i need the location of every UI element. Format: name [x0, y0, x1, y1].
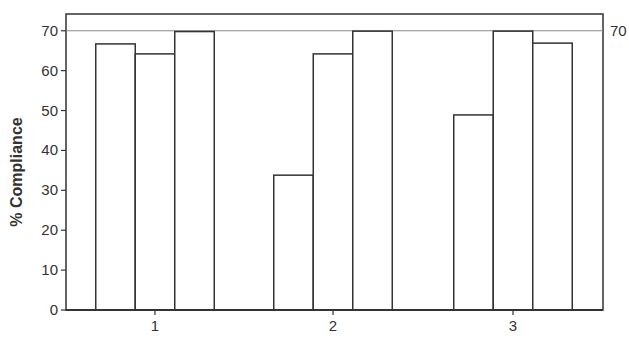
y-tick-label: 0: [50, 301, 58, 318]
y-tick-label: 10: [41, 261, 58, 278]
x-tick-label: 1: [151, 317, 159, 334]
x-tick-label: 3: [509, 317, 517, 334]
y-tick-label: 50: [41, 102, 58, 119]
y-tick-label: 30: [41, 181, 58, 198]
y-tick-label: 60: [41, 62, 58, 79]
bar: [313, 54, 353, 310]
y-tick-label: 20: [41, 221, 58, 238]
y-tick-label: 70: [41, 22, 58, 39]
bar: [135, 54, 175, 310]
bar: [96, 44, 136, 310]
x-tick-label: 2: [329, 317, 337, 334]
bar-chart: 70010203040506070123 % Compliance: [0, 0, 629, 345]
bar: [274, 175, 314, 310]
bar: [353, 31, 393, 310]
bar: [454, 115, 494, 310]
plot-area: 70010203040506070123: [41, 14, 626, 334]
bar: [533, 43, 573, 310]
bar: [493, 31, 533, 310]
y-tick-label: 40: [41, 141, 58, 158]
y-axis-label: % Compliance: [8, 117, 25, 226]
bar: [175, 32, 215, 310]
reference-line-label: 70: [610, 22, 627, 39]
